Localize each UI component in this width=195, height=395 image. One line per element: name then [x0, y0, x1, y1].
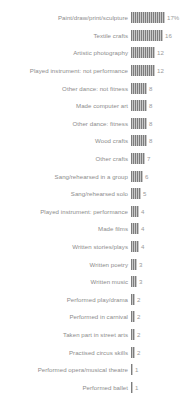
bar-category-label: Sang/rehearsed in a group: [0, 173, 131, 180]
bar-track: 8: [131, 79, 195, 97]
bar-row: Paint/draw/print/sculpture17%: [0, 9, 195, 27]
bar-track: 6: [131, 167, 195, 185]
bar-row: Played instrument: performance4: [0, 203, 195, 221]
bar-track: 3: [131, 273, 195, 291]
bar-category-label: Sang/rehearsed solo: [0, 190, 131, 197]
bar-row: Taken part in street arts2: [0, 326, 195, 344]
bar-category-label: Paint/draw/print/sculpture: [0, 14, 131, 21]
bar-track: 4: [131, 238, 195, 256]
bar: [131, 12, 165, 23]
bar-value-label: 4: [139, 243, 144, 250]
bar-track: 8: [131, 115, 195, 133]
bar-track: 12: [131, 62, 195, 80]
horizontal-bar-chart: Paint/draw/print/sculpture17%Textile cra…: [0, 0, 195, 395]
bar-track: 12: [131, 44, 195, 62]
bar-category-label: Performed in carnival: [0, 313, 131, 320]
bar-track: 17%: [131, 9, 195, 27]
bar-row: Other dance: not fitness8: [0, 79, 195, 97]
bar-category-label: Made films: [0, 225, 131, 232]
bar-row: Textile crafts16: [0, 27, 195, 45]
bar-value-label: 8: [147, 85, 152, 92]
bar-row: Written poetry3: [0, 255, 195, 273]
bar: [131, 171, 143, 182]
bar: [131, 223, 139, 234]
bar-category-label: Other dance: fitness: [0, 120, 131, 127]
bar-value-label: 3: [137, 278, 142, 285]
bar-value-label: 2: [135, 331, 140, 338]
bar-track: 8: [131, 97, 195, 115]
bar-value-label: 1: [133, 384, 138, 391]
bar-category-label: Performed ballet: [0, 384, 131, 391]
bar-value-label: 8: [147, 102, 152, 109]
bar-value-label: 3: [137, 261, 142, 268]
bar-value-label: 8: [147, 120, 152, 127]
bar-value-label: 12: [155, 49, 164, 56]
bar-row: Sang/rehearsed in a group6: [0, 167, 195, 185]
bar-track: 2: [131, 343, 195, 361]
bar: [131, 118, 147, 129]
bar-value-label: 1: [133, 366, 138, 373]
bar-row: Sang/rehearsed solo5: [0, 185, 195, 203]
bar-track: 4: [131, 203, 195, 221]
bar-row: Made films4: [0, 220, 195, 238]
bar: [131, 241, 139, 252]
bar-track: 2: [131, 308, 195, 326]
bar-row: Made computer art8: [0, 97, 195, 115]
bar: [131, 153, 145, 164]
bar-track: 3: [131, 255, 195, 273]
bar-track: 2: [131, 326, 195, 344]
bar-category-label: Artistic photography: [0, 49, 131, 56]
bar-category-label: Textile crafts: [0, 32, 131, 39]
bar-category-label: Wood crafts: [0, 137, 131, 144]
bar-track: 16: [131, 27, 195, 45]
bar-row: Other dance: fitness8: [0, 115, 195, 133]
bar-value-label: 17%: [165, 14, 179, 21]
bar-value-label: 4: [139, 208, 144, 215]
bar-category-label: Written music: [0, 278, 131, 285]
bar-row: Performed play/drama2: [0, 291, 195, 309]
bar-row: Artistic photography12: [0, 44, 195, 62]
bar-value-label: 2: [135, 296, 140, 303]
bar-category-label: Made computer art: [0, 102, 131, 109]
bar-row: Performed opera/musical theatre1: [0, 361, 195, 379]
bar-track: 1: [131, 378, 195, 395]
bar-track: 5: [131, 185, 195, 203]
bar-row: Performed in carnival2: [0, 308, 195, 326]
bar-category-label: Taken part in street arts: [0, 331, 131, 338]
bar-row: Written stories/plays4: [0, 238, 195, 256]
bar: [131, 83, 147, 94]
bar-category-label: Written stories/plays: [0, 243, 131, 250]
bar: [131, 100, 147, 111]
bar-category-label: Other dance: not fitness: [0, 85, 131, 92]
bar-row: Wood crafts8: [0, 132, 195, 150]
bar: [131, 206, 139, 217]
bar-category-label: Written poetry: [0, 261, 131, 268]
bar-row: Performed ballet1: [0, 378, 195, 395]
bar-value-label: 16: [163, 32, 172, 39]
bar-category-label: Played instrument: not performance: [0, 67, 131, 74]
bar-category-label: Performed opera/musical theatre: [0, 366, 131, 373]
bar-track: 1: [131, 361, 195, 379]
bar-row: Written music3: [0, 273, 195, 291]
bar: [131, 65, 155, 76]
bar-track: 4: [131, 220, 195, 238]
bar-category-label: Played instrument: performance: [0, 208, 131, 215]
bar-category-label: Practised circus skills: [0, 349, 131, 356]
bar-track: 8: [131, 132, 195, 150]
bar-row: Other crafts7: [0, 150, 195, 168]
bar: [131, 47, 155, 58]
bar-row: Practised circus skills2: [0, 343, 195, 361]
bar: [131, 30, 163, 41]
bar-row: Played instrument: not performance12: [0, 62, 195, 80]
bar-value-label: 6: [143, 173, 148, 180]
bar-value-label: 7: [145, 155, 150, 162]
bar-value-label: 4: [139, 225, 144, 232]
bar: [131, 188, 141, 199]
bar-track: 2: [131, 291, 195, 309]
bar-category-label: Performed play/drama: [0, 296, 131, 303]
bar-value-label: 8: [147, 137, 152, 144]
bar-value-label: 5: [141, 190, 146, 197]
bar: [131, 135, 147, 146]
bar-track: 7: [131, 150, 195, 168]
bar-value-label: 2: [135, 349, 140, 356]
